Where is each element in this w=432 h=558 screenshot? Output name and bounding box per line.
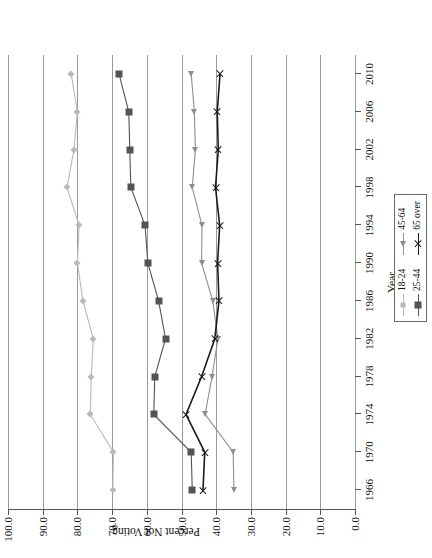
y-axis-tick xyxy=(112,509,113,515)
x-axis-tick-label: 1966 xyxy=(364,479,375,501)
data-point-marker xyxy=(144,260,151,267)
data-point-marker xyxy=(116,70,123,77)
y-axis-tick-label: 0.0 xyxy=(350,517,361,531)
data-point-marker xyxy=(209,374,215,380)
chart-legend: 18-2425-44 45-6465 over xyxy=(394,194,427,322)
data-point-marker xyxy=(189,184,195,190)
x-axis-tick xyxy=(355,73,361,74)
series-line-25-44 xyxy=(119,74,192,490)
data-point-marker xyxy=(125,108,132,115)
legend-entry-65-over[interactable]: 65 over xyxy=(413,201,423,255)
data-point-marker xyxy=(213,259,222,268)
y-axis-title: Percent Not Voting xyxy=(86,526,226,538)
data-point-marker xyxy=(214,296,223,305)
x-axis-tick-label: 1986 xyxy=(364,290,375,312)
y-axis-tick xyxy=(43,509,44,515)
x-axis-tick-label: 1978 xyxy=(364,366,375,388)
x-axis-tick xyxy=(355,186,361,187)
chart-figure: 0.010.020.030.040.050.060.070.080.090.01… xyxy=(0,0,432,558)
data-point-marker xyxy=(150,411,157,418)
legend-label: 18-24 xyxy=(398,269,408,291)
legend-column-left: 18-2425-44 xyxy=(398,269,423,316)
rotated-figure-wrapper: 0.010.020.030.040.050.060.070.080.090.01… xyxy=(0,0,432,558)
data-point-marker xyxy=(210,334,219,343)
legend-swatch-icon xyxy=(398,233,408,255)
y-axis-tick xyxy=(8,509,9,515)
legend-entry-25-44[interactable]: 25-44 xyxy=(413,269,423,316)
x-axis-tick xyxy=(355,262,361,263)
data-point-marker xyxy=(188,71,194,77)
y-axis-tick xyxy=(77,509,78,515)
y-axis-tick xyxy=(320,509,321,515)
data-point-marker xyxy=(188,449,195,456)
data-point-marker xyxy=(216,69,225,78)
legend-label: 25-44 xyxy=(413,269,423,291)
data-point-marker xyxy=(214,145,223,154)
legend-entry-18-24[interactable]: 18-24 xyxy=(398,269,408,316)
y-axis-tick-label: 20.0 xyxy=(280,517,291,536)
data-point-marker xyxy=(189,487,196,494)
y-axis-tick xyxy=(286,509,287,515)
y-gridline xyxy=(355,55,356,509)
data-point-marker xyxy=(199,260,205,266)
legend-label: 45-64 xyxy=(398,208,408,230)
data-point-marker xyxy=(182,410,191,419)
data-point-marker xyxy=(215,221,224,230)
x-axis-tick-label: 1970 xyxy=(364,441,375,463)
legend-label: 65 over xyxy=(413,201,423,230)
data-point-marker xyxy=(199,222,205,228)
x-axis-tick-label: 2006 xyxy=(364,101,375,123)
data-point-marker xyxy=(192,147,198,153)
y-axis-tick xyxy=(147,509,148,515)
series-line-45-64 xyxy=(191,74,234,490)
data-point-marker xyxy=(142,222,149,229)
data-series-layer xyxy=(8,55,355,509)
y-axis-tick-label: 10.0 xyxy=(315,517,326,536)
x-axis-tick xyxy=(355,224,361,225)
y-axis-tick xyxy=(182,509,183,515)
data-point-marker xyxy=(213,107,222,116)
y-axis-tick-label: 90.0 xyxy=(37,517,48,536)
x-axis-tick xyxy=(355,413,361,414)
data-point-marker xyxy=(211,183,220,192)
x-axis-tick xyxy=(355,376,361,377)
data-point-marker xyxy=(127,184,134,191)
data-point-marker xyxy=(199,486,208,495)
x-axis-tick xyxy=(355,489,361,490)
data-point-marker xyxy=(200,448,209,457)
data-point-marker xyxy=(151,373,158,380)
y-axis-tick-label: 30.0 xyxy=(245,517,256,536)
y-axis-tick-label: 100.0 xyxy=(3,517,14,542)
data-point-marker xyxy=(155,297,162,304)
x-axis-tick-label: 2010 xyxy=(364,63,375,85)
data-point-marker xyxy=(191,109,197,115)
series-line-18-24 xyxy=(67,74,113,490)
x-axis-tick xyxy=(355,338,361,339)
x-axis-tick-label: 1994 xyxy=(364,214,375,236)
data-point-marker xyxy=(230,449,236,455)
data-point-marker xyxy=(202,411,208,417)
x-axis-tick xyxy=(355,300,361,301)
x-axis-tick-label: 1998 xyxy=(364,176,375,198)
legend-swatch-icon xyxy=(398,294,408,316)
data-point-marker xyxy=(231,487,237,493)
legend-swatch-icon xyxy=(413,233,423,255)
x-axis-tick xyxy=(355,149,361,150)
x-axis-tick xyxy=(355,451,361,452)
y-axis-tick xyxy=(216,509,217,515)
y-axis-tick xyxy=(251,509,252,515)
plot-area: 0.010.020.030.040.050.060.070.080.090.01… xyxy=(8,55,356,510)
data-point-marker xyxy=(197,372,206,381)
legend-swatch-icon xyxy=(413,294,423,316)
x-axis-tick xyxy=(355,111,361,112)
legend-column-right: 45-6465 over xyxy=(398,201,423,255)
x-axis-tick-label: 1982 xyxy=(364,328,375,350)
x-axis-tick-label: 1990 xyxy=(364,252,375,274)
x-axis-tick-label: 1974 xyxy=(364,403,375,425)
y-axis-tick xyxy=(355,509,356,515)
data-point-marker xyxy=(162,335,169,342)
x-axis-tick-label: 2002 xyxy=(364,139,375,161)
y-axis-tick-label: 80.0 xyxy=(72,517,83,536)
data-point-marker xyxy=(126,146,133,153)
legend-entry-45-64[interactable]: 45-64 xyxy=(398,201,408,255)
